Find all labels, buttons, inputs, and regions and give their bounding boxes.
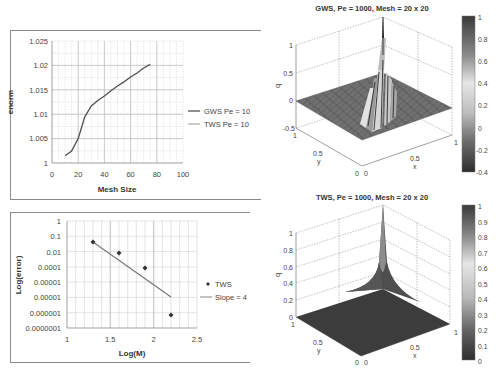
xtick: 1: [65, 335, 69, 344]
colorbar-tick: 0.9: [478, 219, 488, 226]
surface-gws: GWS, Pe = 1000, Mesh = 20 x 20: [273, 4, 488, 177]
ytick: 0.000001: [30, 309, 61, 318]
surface-tws: TWS, Pe = 1000, Mesh = 20 x 20 1 0.8 0.6…: [273, 193, 488, 366]
colorbar-tick: 1: [478, 14, 482, 21]
xtick: 0.5: [410, 344, 420, 351]
colorbar-tick: 0.6: [478, 58, 488, 65]
xtick: 2.5: [192, 335, 202, 344]
xtick: 1.5: [105, 335, 115, 344]
xtick: 1: [454, 139, 458, 146]
ytick: 1.005: [29, 134, 48, 143]
xtick: 0: [50, 170, 54, 179]
colorbar-tick: 0.4: [478, 80, 488, 87]
ytick: 1: [57, 217, 61, 226]
colorbar-tick: 0.2: [478, 102, 488, 109]
ytick: 0.1: [51, 232, 61, 241]
colorbar-tick: 0.8: [478, 234, 488, 241]
ztick: 0.8: [283, 247, 293, 254]
series-slope-line: [93, 242, 171, 297]
colorbar-tick: 0.4: [478, 296, 488, 303]
colorbar: [462, 205, 475, 360]
colorbar-tick: 0.6: [478, 265, 488, 272]
xtick: 60: [126, 170, 134, 179]
ztick: 0.2: [283, 297, 293, 304]
x-axis-label: Mesh Size: [98, 185, 137, 194]
colorbar-tick: 0.1: [478, 343, 488, 350]
xtick: 40: [100, 170, 108, 179]
ytick: 1: [44, 159, 48, 168]
ytick: 1.015: [29, 86, 48, 95]
x-axis-label: x: [413, 352, 417, 359]
xtick: 1: [454, 329, 458, 336]
ytick: 0: [355, 359, 359, 366]
ytick: 0.00001: [34, 293, 61, 302]
ztick: 0.6: [283, 264, 293, 271]
colorbar-tick: -0.2: [476, 147, 488, 154]
y-axis-label: y: [317, 158, 321, 166]
colorbar: [462, 16, 475, 172]
ztick: 1: [289, 230, 293, 237]
xtick: 0: [364, 170, 368, 177]
ytick: 0.0000001: [26, 324, 61, 333]
xtick: 80: [153, 170, 161, 179]
legend-item-tws: TWS: [215, 280, 232, 289]
colorbar-tick: 0.3: [478, 312, 488, 319]
plot-title: TWS, Pe = 1000, Mesh = 20 x 20: [316, 193, 428, 202]
xtick: 20: [74, 170, 82, 179]
ytick: 1.025: [29, 37, 48, 46]
ytick: 0.5: [313, 150, 323, 157]
chart-enorm: 1.025 1.02 1.015 1.01 1.005 1 0 20 40 60…: [6, 37, 250, 194]
ytick: 1.02: [33, 61, 48, 70]
ytick: 1: [291, 321, 295, 328]
xtick: 2: [152, 335, 156, 344]
y-axis-label: Log(error): [14, 255, 23, 294]
chart-error: 1 0.1 0.01 0.0001 0.00001 0.00001 0.0000…: [14, 217, 247, 358]
legend-item-gws: GWS Pe = 10: [204, 107, 250, 116]
legend-item-tws: TWS Pe = 10: [204, 120, 249, 129]
ytick: 0.0001: [38, 263, 61, 272]
ytick: 0.5: [313, 339, 323, 346]
xtick: 100: [177, 170, 190, 179]
colorbar-tick: 1: [478, 203, 482, 210]
colorbar-tick: 0.7: [478, 250, 488, 257]
colorbar-tick: 0.8: [478, 36, 488, 43]
series-tws-points: [91, 240, 174, 318]
plot-title: GWS, Pe = 1000, Mesh = 20 x 20: [315, 4, 428, 13]
legend: TWS Slope = 4: [200, 280, 247, 302]
x-axis-label: x: [413, 163, 417, 170]
ztick: 0: [289, 314, 293, 321]
ytick: 0: [355, 170, 359, 177]
ztick: 0.4: [283, 280, 293, 287]
colorbar-tick: -0.4: [476, 169, 488, 176]
xtick: 0.5: [410, 155, 420, 162]
colorbar-tick: 0.2: [478, 327, 488, 334]
ytick: 0.00001: [34, 278, 61, 287]
z-axis-label: q: [273, 84, 282, 88]
legend: GWS Pe = 10 TWS Pe = 10: [188, 107, 250, 129]
figure-canvas: 1.025 1.02 1.015 1.01 1.005 1 0 20 40 60…: [0, 0, 496, 375]
x-axis-label: Log(M): [119, 349, 146, 358]
colorbar-tick: 0: [478, 125, 482, 132]
colorbar-tick: 0.5: [478, 281, 488, 288]
y-axis-label: y: [317, 347, 321, 355]
y-axis-label: enorm: [6, 90, 15, 114]
ztick: -0.5: [283, 125, 295, 132]
ytick: 1.01: [33, 110, 48, 119]
ztick: 0: [289, 97, 293, 104]
ztick: 1: [289, 42, 293, 49]
colorbar-tick: 0: [478, 358, 482, 365]
xtick: 0: [364, 359, 368, 366]
ytick: 1: [293, 132, 297, 139]
ytick: 0.01: [46, 248, 61, 257]
ztick: 0.5: [283, 70, 293, 77]
legend-item-slope: Slope = 4: [215, 293, 247, 302]
z-axis-label: q: [273, 273, 282, 277]
